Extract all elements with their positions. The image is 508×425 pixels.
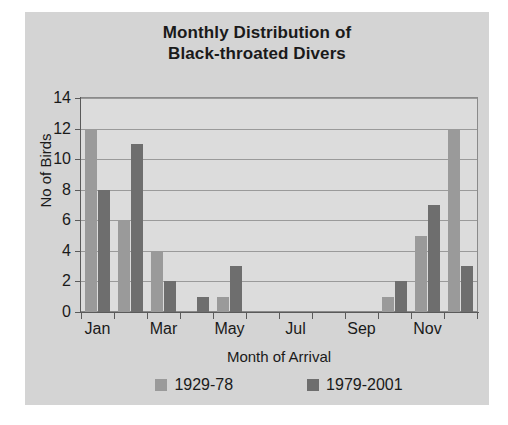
x-tick-mark-4 bbox=[213, 313, 214, 319]
y-tick-label-4: 4 bbox=[62, 242, 71, 260]
bar-mar-1979-2001 bbox=[164, 281, 177, 312]
chart-title-line-1: Monthly Distribution of bbox=[25, 22, 489, 43]
x-tick-mark-3 bbox=[180, 313, 181, 319]
x-tick-label-nov: Nov bbox=[413, 320, 441, 338]
x-axis-title: Month of Arrival bbox=[80, 348, 478, 365]
bars-layer bbox=[81, 98, 477, 312]
x-tick-mark-1 bbox=[114, 313, 115, 319]
x-tick-mark-8 bbox=[345, 313, 346, 319]
y-tick-label-12: 12 bbox=[53, 120, 71, 138]
y-tick-mark-8 bbox=[75, 190, 80, 191]
y-tick-mark-6 bbox=[75, 220, 80, 221]
legend-entry-1979-2001[interactable]: 1979-2001 bbox=[307, 376, 403, 394]
y-tick-label-10: 10 bbox=[53, 150, 71, 168]
bar-dec-1979-2001 bbox=[461, 266, 474, 312]
legend-swatch-1979-2001 bbox=[307, 379, 319, 391]
y-tick-label-8: 8 bbox=[62, 181, 71, 199]
chart-title: Monthly Distribution of Black-throated D… bbox=[25, 22, 489, 64]
y-tick-mark-4 bbox=[75, 251, 80, 252]
y-tick-mark-14 bbox=[75, 98, 80, 99]
x-tick-label-may: May bbox=[214, 320, 244, 338]
x-tick-label-jan: Jan bbox=[85, 320, 111, 338]
x-tick-mark-6 bbox=[279, 313, 280, 319]
legend-entry-1929-78[interactable]: 1929-78 bbox=[155, 376, 233, 394]
legend-label-1929-78: 1929-78 bbox=[174, 376, 233, 394]
y-tick-label-2: 2 bbox=[62, 272, 71, 290]
bar-oct-1929-78 bbox=[382, 297, 395, 312]
x-tick-label-mar: Mar bbox=[150, 320, 178, 338]
bar-feb-1979-2001 bbox=[131, 144, 144, 312]
x-tick-mark-12 bbox=[477, 313, 478, 319]
bar-nov-1929-78 bbox=[415, 236, 428, 312]
x-tick-label-sep: Sep bbox=[347, 320, 375, 338]
chart-title-line-2: Black-throated Divers bbox=[25, 43, 489, 64]
bar-may-1929-78 bbox=[217, 297, 230, 312]
x-tick-mark-10 bbox=[411, 313, 412, 319]
bar-apr-1979-2001 bbox=[197, 297, 210, 312]
y-tick-label-14: 14 bbox=[53, 89, 71, 107]
bar-mar-1929-78 bbox=[151, 251, 164, 312]
legend-label-1979-2001: 1979-2001 bbox=[326, 376, 403, 394]
bar-jan-1979-2001 bbox=[98, 190, 111, 312]
chart-legend: 1929-781979-2001 bbox=[80, 374, 478, 396]
y-tick-mark-10 bbox=[75, 159, 80, 160]
chart-card: Monthly Distribution of Black-throated D… bbox=[25, 12, 489, 405]
x-tick-mark-7 bbox=[312, 313, 313, 319]
bar-jan-1929-78 bbox=[85, 129, 98, 312]
y-tick-mark-2 bbox=[75, 281, 80, 282]
y-tick-label-0: 0 bbox=[62, 303, 71, 321]
bar-oct-1979-2001 bbox=[395, 281, 408, 312]
x-axis-ticks: JanMarMayJulSepNov bbox=[81, 313, 477, 320]
bar-feb-1929-78 bbox=[118, 220, 131, 312]
x-tick-mark-0 bbox=[81, 313, 82, 319]
x-tick-mark-11 bbox=[444, 313, 445, 319]
x-tick-label-jul: Jul bbox=[285, 320, 305, 338]
y-axis-title: No of Birds bbox=[37, 81, 54, 261]
y-tick-mark-12 bbox=[75, 129, 80, 130]
bar-dec-1929-78 bbox=[448, 129, 461, 312]
legend-swatch-1929-78 bbox=[155, 379, 167, 391]
x-tick-mark-9 bbox=[378, 313, 379, 319]
x-tick-mark-5 bbox=[246, 313, 247, 319]
bar-may-1979-2001 bbox=[230, 266, 243, 312]
x-tick-mark-2 bbox=[147, 313, 148, 319]
bar-nov-1979-2001 bbox=[428, 205, 441, 312]
y-tick-label-6: 6 bbox=[62, 211, 71, 229]
